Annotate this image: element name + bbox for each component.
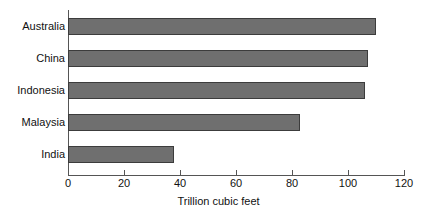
x-axis-line xyxy=(68,175,405,176)
bar-india xyxy=(68,146,174,163)
x-axis-tick xyxy=(180,170,181,175)
y-axis-category-labels: Australia China Indonesia Malaysia India xyxy=(0,10,65,175)
x-axis-tick xyxy=(68,170,69,175)
bar-malaysia xyxy=(68,114,300,131)
bar-chart: Australia China Indonesia Malaysia India… xyxy=(0,0,437,215)
x-axis-tick-label: 60 xyxy=(230,177,242,190)
x-axis-tick-label: 100 xyxy=(339,177,357,190)
y-axis-tick-label: China xyxy=(1,50,65,67)
x-axis-title: Trillion cubic feet xyxy=(0,195,437,207)
x-axis-tick-label: 40 xyxy=(174,177,186,190)
x-axis-tick xyxy=(348,170,349,175)
x-axis-tick xyxy=(292,170,293,175)
bar-indonesia xyxy=(68,82,365,99)
bar-australia xyxy=(68,18,376,35)
bar-china xyxy=(68,50,368,67)
y-axis-tick-label: Australia xyxy=(1,18,65,35)
x-axis-tick-label: 80 xyxy=(286,177,298,190)
x-axis-tick-label: 0 xyxy=(65,177,71,190)
x-axis-tick xyxy=(124,170,125,175)
y-axis-tick-label: Indonesia xyxy=(1,82,65,99)
x-axis-tick xyxy=(236,170,237,175)
plot-area xyxy=(68,10,404,175)
y-axis-tick-label: India xyxy=(1,146,65,163)
x-axis-tick-label: 120 xyxy=(395,177,413,190)
x-axis-tick-label: 20 xyxy=(118,177,130,190)
x-axis-tick xyxy=(404,170,405,175)
y-axis-tick-label: Malaysia xyxy=(1,114,65,131)
